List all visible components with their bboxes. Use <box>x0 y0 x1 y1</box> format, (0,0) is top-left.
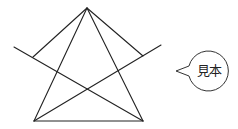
triangle-side-left <box>34 8 87 121</box>
sample-label: 見本 <box>192 62 226 80</box>
apex-to-left-segment <box>33 8 87 57</box>
triangle-side-right <box>87 8 143 121</box>
apex-to-right-segment <box>87 8 143 56</box>
crossing-line-down-right <box>14 47 143 121</box>
crossing-line-up-right <box>34 45 161 121</box>
